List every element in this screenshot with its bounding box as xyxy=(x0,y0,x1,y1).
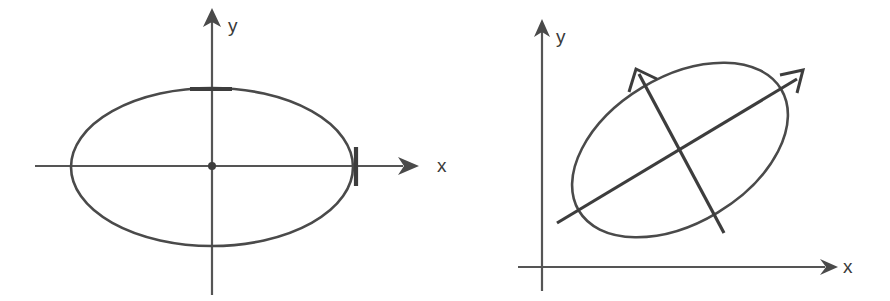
axis-aligned-ellipse-panel xyxy=(0,0,445,301)
major-axis-line xyxy=(557,79,797,223)
right-x-axis-label: x xyxy=(843,257,853,276)
right-y-axis xyxy=(534,19,550,291)
right-x-axis xyxy=(518,259,838,275)
major-axis-arrow xyxy=(557,70,803,223)
left-y-axis xyxy=(203,8,221,295)
left-y-axis-label: y xyxy=(228,16,238,35)
left-x-axis xyxy=(35,157,419,175)
rotated-ellipse-panel xyxy=(445,0,890,301)
minor-axis-line xyxy=(639,74,724,233)
right-y-axis-label: y xyxy=(556,27,566,46)
left-center-point xyxy=(208,162,216,170)
figure-canvas: y x y x xyxy=(0,0,890,301)
